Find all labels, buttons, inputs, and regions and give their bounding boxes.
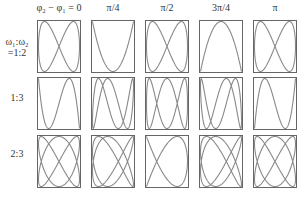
- lissajous-curve: [201, 22, 242, 72]
- lissajous-plot: [199, 135, 243, 188]
- lissajous-plot: [145, 135, 189, 188]
- header-phase-0: φ₂ − φ₁ = 0: [29, 2, 89, 13]
- ratio-value: 2:3: [0, 148, 34, 159]
- lissajous-curve: [255, 22, 296, 72]
- lissajous-curve: [93, 79, 134, 129]
- lissajous-plot: [199, 20, 243, 73]
- header-phase-pi: π: [245, 2, 305, 13]
- lissajous-plot: [253, 135, 297, 188]
- lissajous-plot: [37, 135, 81, 188]
- lissajous-plot: [91, 77, 135, 130]
- lissajous-curve: [147, 137, 188, 187]
- lissajous-curve: [93, 22, 134, 72]
- ratio-value: 1:3: [0, 92, 34, 103]
- lissajous-plot: [91, 20, 135, 73]
- header-phase-pi-2: π/2: [137, 2, 197, 13]
- lissajous-curve: [201, 79, 242, 129]
- lissajous-curve: [255, 79, 296, 129]
- lissajous-plot: [91, 135, 135, 188]
- lissajous-curve: [93, 137, 134, 187]
- lissajous-curve: [39, 137, 80, 187]
- lissajous-curve: [201, 137, 242, 187]
- lissajous-curve: [39, 79, 80, 129]
- ratio-value: =1:2: [0, 47, 34, 58]
- lissajous-plot: [145, 20, 189, 73]
- header-phase-pi-4: π/4: [83, 2, 143, 13]
- lissajous-curve: [255, 137, 296, 187]
- ratio-label: ω₁:ω₂: [0, 36, 34, 47]
- row-label-1-3: 1:3: [0, 92, 34, 103]
- lissajous-plot: [253, 20, 297, 73]
- lissajous-plot: [199, 77, 243, 130]
- row-label-2-3: 2:3: [0, 148, 34, 159]
- lissajous-curve: [39, 22, 80, 72]
- lissajous-plot: [37, 20, 81, 73]
- lissajous-curve: [147, 79, 188, 129]
- lissajous-plot: [145, 77, 189, 130]
- lissajous-plot: [253, 77, 297, 130]
- lissajous-plot: [37, 77, 81, 130]
- row-label-1-2: ω₁:ω₂ =1:2: [0, 36, 34, 58]
- header-phase-3pi-4: 3π/4: [191, 2, 251, 13]
- lissajous-curve: [147, 22, 188, 72]
